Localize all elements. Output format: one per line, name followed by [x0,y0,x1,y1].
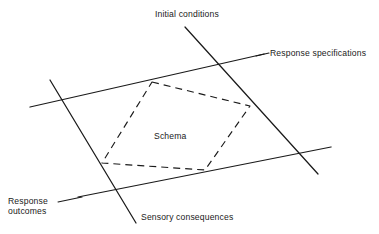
label-response-specifications: Response specifications [270,48,366,58]
response-outcomes-line [50,80,136,223]
response-outcomes-leader-line [58,197,82,202]
sensory-consequences-line [78,147,331,197]
diagram-canvas [0,0,379,234]
label-response-outcomes: Response outcomes [8,196,48,216]
schema-diagram: Initial conditions Response specificatio… [0,0,379,234]
response-specifications-line [30,54,264,107]
response-specifications-leader-line [256,53,269,56]
label-initial-conditions: Initial conditions [155,9,219,19]
label-sensory-consequences: Sensory consequences [141,212,233,222]
schema-pentagon-outline [102,82,250,170]
label-schema: Schema [154,131,186,141]
